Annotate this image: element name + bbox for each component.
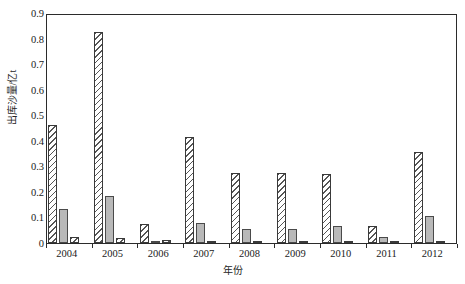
x-tick-label-2008: 2008: [239, 248, 260, 259]
x-tick-label-2012: 2012: [422, 248, 443, 259]
bar-2006-series-3: [162, 240, 171, 243]
x-tick-mark: [137, 244, 138, 248]
bar-2006-series-2: [151, 241, 160, 243]
bar-2005-series-1: [94, 32, 103, 243]
bar-2010-series-1: [322, 174, 331, 243]
bar-2009-series-2: [288, 229, 297, 243]
bar-2004-series-2: [59, 209, 68, 244]
y-tick-label: 0: [0, 239, 44, 249]
bar-2007-series-1: [185, 137, 194, 243]
x-tick-mark: [274, 244, 275, 248]
bar-2011-series-2: [379, 237, 388, 243]
x-tick-mark: [457, 244, 458, 248]
bar-2008-series-2: [242, 229, 251, 243]
x-tick-label-2006: 2006: [148, 248, 169, 259]
x-tick-label-2010: 2010: [330, 248, 351, 259]
y-tick-label: 0.7: [0, 60, 44, 70]
bar-chart: 出库沙量/亿t 00.10.20.30.40.50.60.70.80.9 200…: [0, 0, 465, 284]
x-tick-label-2007: 2007: [193, 248, 214, 259]
y-tick-label: 0.6: [0, 86, 44, 96]
y-tick-label: 0.4: [0, 137, 44, 147]
bar-2012-series-2: [425, 216, 434, 243]
bar-2011-series-1: [368, 226, 377, 243]
bar-2009-series-1: [277, 173, 286, 243]
bar-2005-series-2: [105, 196, 114, 243]
y-tick-label: 0.5: [0, 111, 44, 121]
x-tick-mark: [46, 244, 47, 248]
bar-2008-series-3: [253, 241, 262, 243]
bar-2007-series-2: [196, 223, 205, 243]
bar-2005-series-3: [116, 238, 125, 243]
bar-2010-series-2: [333, 226, 342, 243]
x-axis-label: 年份: [0, 265, 465, 276]
bar-2004-series-3: [70, 237, 79, 243]
x-tick-mark: [411, 244, 412, 248]
x-tick-label-2011: 2011: [376, 248, 397, 259]
bar-2010-series-3: [344, 241, 353, 243]
y-tick-label: 0.2: [0, 188, 44, 198]
x-tick-mark: [229, 244, 230, 248]
y-tick-label: 0.9: [0, 9, 44, 19]
bar-2009-series-3: [299, 241, 308, 243]
bar-2008-series-1: [231, 173, 240, 243]
x-tick-mark: [320, 244, 321, 248]
y-tick-label: 0.1: [0, 213, 44, 223]
y-tick-label: 0.8: [0, 35, 44, 45]
bar-2011-series-3: [390, 241, 399, 243]
x-tick-label-2005: 2005: [102, 248, 123, 259]
bar-2012-series-3: [436, 241, 445, 243]
x-tick-mark: [92, 244, 93, 248]
x-tick-mark: [183, 244, 184, 248]
bar-2004-series-1: [48, 125, 57, 243]
bar-2012-series-1: [414, 152, 423, 243]
x-tick-mark: [366, 244, 367, 248]
bar-2007-series-3: [207, 241, 216, 243]
plot-area: [46, 14, 457, 244]
y-tick-label: 0.3: [0, 162, 44, 172]
x-tick-label-2009: 2009: [285, 248, 306, 259]
x-tick-label-2004: 2004: [56, 248, 77, 259]
bar-2006-series-1: [140, 224, 149, 243]
